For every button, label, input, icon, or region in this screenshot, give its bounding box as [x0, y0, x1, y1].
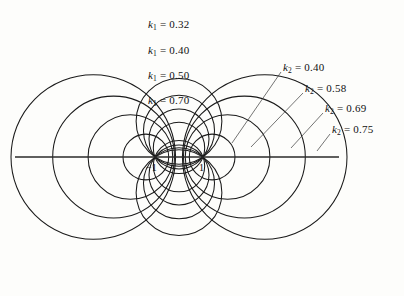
k1-label-0.50: k1 = 0.50	[148, 70, 189, 81]
k1-label-0.40: k1 = 0.40	[148, 45, 189, 56]
foci-circle-lower-k0.5	[149, 145, 209, 205]
focus-label-one: 1	[199, 162, 204, 173]
leader-line-k2-2	[291, 113, 323, 148]
k2-label-0.40: k2 = 0.40	[283, 62, 324, 73]
leader-line-k2-1	[251, 93, 303, 147]
foci-circle-upper-k0.32	[136, 78, 222, 164]
coaxial-circles-plot	[0, 0, 404, 296]
focus-label-minus-one: −1	[146, 162, 157, 173]
foci-circle-upper-k0.5	[149, 109, 209, 169]
leader-line-k2-3	[317, 134, 330, 151]
k2-label-0.69: k2 = 0.69	[325, 103, 366, 114]
k1-label-0.32: k1 = 0.32	[148, 19, 189, 30]
figure-canvas: k1 = 0.32k1 = 0.40k1 = 0.50k1 = 0.70 k2 …	[0, 0, 404, 296]
k2-label-0.58: k2 = 0.58	[305, 83, 346, 94]
k1-label-0.70: k1 = 0.70	[148, 95, 189, 106]
k2-label-0.75: k2 = 0.75	[332, 124, 373, 135]
leader-line-k2-0	[232, 72, 281, 143]
